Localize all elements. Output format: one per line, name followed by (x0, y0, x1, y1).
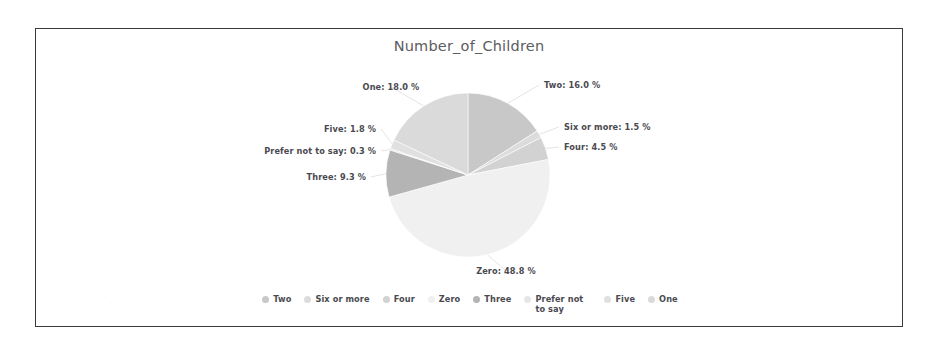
slice-label: Two: 16.0 % (544, 81, 600, 89)
legend-item-label: Four (394, 295, 415, 304)
legend-swatch-icon (262, 296, 269, 303)
legend-swatch-icon (648, 296, 655, 303)
legend-item-label: Three (484, 295, 511, 304)
legend-swatch-icon (604, 296, 611, 303)
legend-item[interactable]: Prefer not to say (524, 295, 591, 314)
legend-item-label: Prefer not to say (535, 295, 591, 314)
legend-item[interactable]: Five (604, 295, 635, 304)
legend-item-label: Six or more (315, 295, 369, 304)
slice-leader-line (545, 147, 559, 149)
slice-label: Zero: 48.8 % (436, 267, 576, 275)
legend-item-label: Two (273, 295, 291, 304)
slice-label: Three: 9.3 % (307, 173, 366, 181)
legend-item[interactable]: Three (473, 295, 511, 304)
pie-slices-group (386, 93, 550, 257)
slice-label: Four: 4.5 % (564, 143, 618, 151)
legend-swatch-icon (304, 296, 311, 303)
slice-label: One: 18.0 % (321, 83, 461, 91)
slice-leader-line (507, 85, 539, 104)
legend-item-label: Zero (439, 295, 461, 304)
legend-item[interactable]: Six or more (304, 295, 369, 304)
legend-item-label: Five (615, 295, 635, 304)
legend-item[interactable]: Four (383, 295, 415, 304)
pie-chart-plot-area: Two: 16.0 %Six or more: 1.5 %Four: 4.5 %… (36, 29, 904, 328)
slice-leader-line (371, 173, 387, 177)
legend-swatch-icon (428, 296, 435, 303)
chart-frame: Number_of_Children Two: 16.0 %Six or mor… (35, 28, 903, 327)
slice-leader-line (538, 127, 559, 135)
legend-item[interactable]: Two (262, 295, 291, 304)
legend-swatch-icon (383, 296, 390, 303)
slice-label: Prefer not to say: 0.3 % (264, 147, 376, 155)
pie-chart-svg (36, 29, 904, 328)
slice-label: Five: 1.8 % (324, 125, 376, 133)
slice-label: Six or more: 1.5 % (564, 123, 651, 131)
slice-leader-line (381, 129, 393, 144)
chart-legend: TwoSix or moreFourZeroThreePrefer not to… (36, 295, 904, 314)
legend-swatch-icon (473, 296, 480, 303)
legend-item[interactable]: One (648, 295, 678, 304)
legend-item-label: One (659, 295, 678, 304)
legend-item[interactable]: Zero (428, 295, 461, 304)
legend-swatch-icon (524, 296, 531, 303)
